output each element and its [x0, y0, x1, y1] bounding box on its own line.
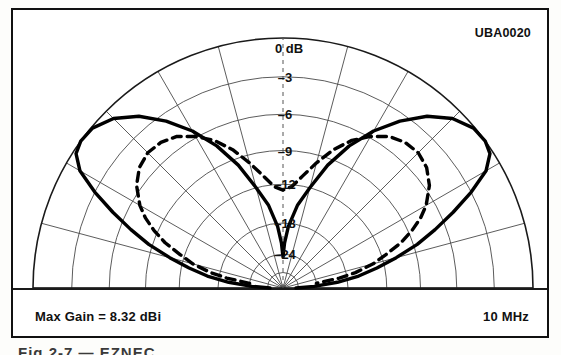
radial-tick-neg9: –9: [278, 143, 292, 158]
figure-root: 0 dB–3–6–9–12–18–24 UBA0020 Max Gain = 8…: [0, 0, 561, 355]
radial-tick-neg3: –3: [278, 69, 292, 84]
corner-tag: UBA0020: [475, 26, 531, 40]
max-gain-label: Max Gain = 8.32 dBi: [35, 309, 161, 324]
frequency-label: 10 MHz: [483, 309, 529, 324]
radial-tick-neg18: –18: [274, 216, 296, 231]
radial-tick-neg24: –24: [274, 247, 296, 262]
figure-frame: 0 dB–3–6–9–12–18–24 UBA0020 Max Gain = 8…: [11, 8, 549, 338]
radial-tick-neg6: –6: [278, 107, 292, 122]
figure-caption: Fig 2-7 — EZNEC: [18, 344, 156, 355]
radial-tick-0: 0 dB: [275, 41, 303, 56]
polar-plot-svg: [13, 10, 547, 336]
radial-tick-neg12: –12: [274, 177, 296, 192]
